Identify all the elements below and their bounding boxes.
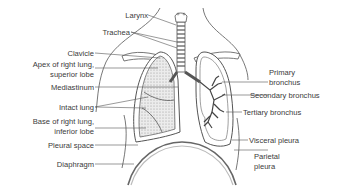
label-base-line2: inferior lobe xyxy=(10,127,94,136)
label-parietal-line2: pleura xyxy=(254,162,275,171)
lung-anatomy-diagram: Larynx Trachea Clavicle Apex of right lu… xyxy=(0,0,346,186)
label-primary-line2: bronchus xyxy=(269,78,300,87)
diaphragm xyxy=(128,142,236,185)
label-visceral-pleura: Visceral pleura xyxy=(249,136,299,145)
label-intact-lung: Intact lung xyxy=(10,103,94,112)
label-apex-line1: Apex of right lung, xyxy=(10,60,94,69)
label-apex-line2: superior lobe xyxy=(10,70,94,79)
label-trachea: Trachea xyxy=(80,28,130,37)
label-larynx: Larynx xyxy=(104,11,148,20)
label-parietal-line1: Parietal xyxy=(254,152,280,161)
label-clavicle: Clavicle xyxy=(20,49,94,58)
label-diaphragm: Diaphragm xyxy=(10,160,94,169)
label-mediastinum: Mediastinum xyxy=(10,83,94,92)
label-primary-line1: Primary xyxy=(269,68,295,77)
label-tertiary-bronchus: Tertiary bronchus xyxy=(243,108,301,117)
label-secondary-bronchus: Secondary bronchus xyxy=(250,91,320,100)
label-pleural-space: Pleural space xyxy=(10,141,94,150)
label-base-line1: Base of right lung, xyxy=(10,117,94,126)
